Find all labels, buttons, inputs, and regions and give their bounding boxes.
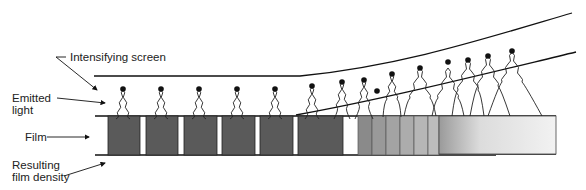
emitted-light-label-line2: light [12, 104, 33, 116]
intensifying-screen-upper [94, 13, 572, 76]
diagram-canvas [0, 0, 586, 190]
film-label: Film [25, 131, 47, 143]
gradient-density-region [439, 116, 556, 154]
dark-density-blocks [108, 116, 343, 155]
emitted-light-label-line1: Emitted [12, 92, 51, 104]
intensifying-screen-lower [296, 52, 576, 115]
phosphor-dots [120, 48, 515, 94]
resulting-density-label-line1: Resulting [12, 159, 60, 171]
resulting-density-label-line2: film density [12, 171, 70, 183]
intensifying-screen-label: Intensifying screen [70, 51, 166, 63]
graded-density-stripes [358, 116, 439, 155]
